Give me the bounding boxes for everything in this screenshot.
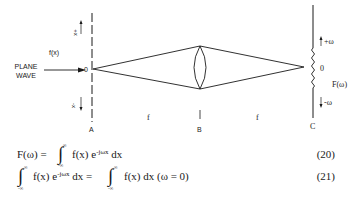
plane-c-label: C [310, 122, 315, 131]
input-function-label: f(x) [49, 48, 59, 57]
integral-sign-icon: ∫ [108, 166, 113, 185]
eq21-integrand: f(x) e-jωx dx = [33, 170, 92, 182]
eq21-number: (21) [317, 170, 335, 182]
eq21-upper-limit-2: ∞ [114, 165, 118, 170]
equation-20: F(ω) = ∫ ∞ -∞ f(x) e-jωx dx (20) [0, 144, 357, 168]
integral-sign-icon: ∫ [18, 166, 23, 185]
eq20-upper-limit: ∞ [63, 143, 67, 148]
plus-x-label: +x [71, 29, 80, 36]
plus-omega-label: +ω [324, 37, 334, 46]
equation-21: ∫ ∞ -∞ f(x) e-jωx dx = ∫ ∞ -∞ f(x) dx (ω… [0, 166, 357, 190]
eq20-integrand: f(x) e-jωx dx [72, 148, 122, 160]
plane-a-label: A [89, 125, 94, 134]
minus-x-label: -x [69, 103, 78, 108]
output-spectrum-label: F(ω) [332, 80, 347, 89]
eq21-upper-limit: ∞ [24, 165, 28, 170]
eq21-lower-limit-2: -∞ [108, 186, 113, 191]
eq20-number: (20) [317, 148, 335, 160]
eq21-rhs: f(x) dx (ω = 0) [124, 170, 189, 182]
focal-length-2: f [256, 113, 259, 122]
origin-a-label: 0 [84, 65, 88, 74]
plane-wave-label-2: WAVE [12, 71, 40, 80]
origin-c-label: 0 [320, 64, 324, 73]
eq21-lower-limit: -∞ [18, 186, 23, 191]
focal-length-1: f [147, 113, 150, 122]
fourier-optics-diagram: f(x) PLANE WAVE 0 +x -x +ω -ω 0 F(ω) A B… [0, 0, 357, 140]
spectrum-wave-icon [312, 48, 315, 88]
optics-lines [0, 0, 357, 140]
plane-wave-label-1: PLANE [12, 62, 40, 71]
minus-omega-label: -ω [324, 98, 332, 107]
eq20-lhs: F(ω) = [17, 148, 47, 160]
plane-b-label: B [197, 125, 202, 134]
lens-icon [194, 46, 206, 89]
